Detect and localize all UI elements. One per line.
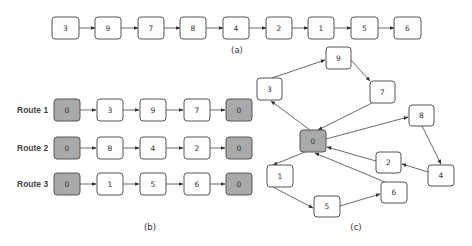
svg-text:3: 3: [267, 85, 272, 94]
svg-text:8: 8: [191, 24, 196, 33]
svg-text:2: 2: [195, 144, 200, 153]
svg-text:9: 9: [151, 106, 156, 115]
svg-text:1: 1: [108, 180, 113, 189]
svg-text:0: 0: [237, 180, 242, 189]
sequence-node: 2: [266, 17, 292, 39]
sequence-node: 3: [52, 17, 79, 39]
svg-text:1: 1: [278, 172, 283, 181]
svg-text:5: 5: [325, 202, 330, 211]
routing-diagram: 3 9 7 8 4 2 1 5 6 (a) Route 1 0 3 9 7 0 …: [0, 0, 472, 246]
svg-text:1: 1: [319, 24, 324, 33]
route-1: Route 1 0 3 9 7 0: [17, 99, 252, 121]
graph-node: 6: [381, 182, 407, 203]
route-2: Route 2 0 8 4 2 0: [17, 137, 252, 159]
svg-text:0: 0: [65, 180, 70, 189]
depot-node: 0: [54, 99, 80, 121]
svg-text:9: 9: [106, 24, 111, 33]
route-node: 7: [184, 99, 210, 121]
svg-text:3: 3: [63, 24, 68, 33]
sequence-node: 4: [223, 17, 249, 39]
svg-text:4: 4: [234, 24, 239, 33]
svg-text:3: 3: [108, 106, 113, 115]
route-node: 2: [184, 137, 210, 159]
graph-node: 1: [267, 165, 293, 187]
svg-text:0: 0: [237, 144, 242, 153]
svg-text:5: 5: [362, 24, 367, 33]
graph-node: 8: [409, 105, 434, 126]
route-node: 1: [97, 173, 123, 195]
svg-text:7: 7: [149, 24, 154, 33]
sequence-node: 8: [180, 17, 206, 39]
graph-node: 4: [428, 165, 454, 186]
panel-c-route-graph: 0 3 9 7 8 2 4 1 6 5 (c): [257, 47, 454, 232]
svg-text:4: 4: [151, 144, 156, 153]
svg-text:6: 6: [392, 188, 397, 197]
caption-b: (b): [144, 222, 156, 232]
depot-node: 0: [226, 173, 252, 195]
route-node: 6: [184, 173, 210, 195]
route-label: Route 3: [17, 179, 48, 189]
svg-text:7: 7: [195, 106, 200, 115]
route-node: 3: [97, 99, 123, 121]
depot-node: 0: [226, 99, 252, 121]
svg-text:5: 5: [151, 180, 156, 189]
graph-node: 7: [370, 81, 395, 103]
svg-text:8: 8: [419, 111, 424, 120]
svg-text:6: 6: [195, 180, 200, 189]
sequence-node: 5: [351, 17, 378, 39]
svg-text:0: 0: [65, 144, 70, 153]
panel-b-routes: Route 1 0 3 9 7 0 Route 2 0 8 4 2 0 Rout: [17, 99, 252, 232]
graph-node: 3: [257, 78, 282, 100]
route-node: 5: [140, 173, 166, 195]
route-label: Route 2: [17, 143, 48, 153]
svg-text:0: 0: [65, 106, 70, 115]
sequence-node: 1: [308, 17, 334, 39]
depot-node: 0: [226, 137, 252, 159]
graph-depot-node: 0: [300, 130, 326, 152]
graph-node: 9: [326, 47, 351, 69]
route-node: 9: [140, 99, 166, 121]
panel-a-giant-tour: 3 9 7 8 4 2 1 5 6 (a): [52, 17, 421, 55]
svg-text:0: 0: [237, 106, 242, 115]
graph-node: 5: [314, 196, 340, 217]
caption-a: (a): [231, 45, 243, 55]
route-3: Route 3 0 1 5 6 0: [17, 173, 252, 195]
sequence-node: 9: [95, 17, 121, 39]
svg-text:0: 0: [311, 137, 316, 146]
svg-text:6: 6: [405, 24, 410, 33]
svg-text:8: 8: [108, 144, 113, 153]
depot-node: 0: [54, 173, 80, 195]
svg-text:4: 4: [439, 171, 444, 180]
route-node: 4: [140, 137, 166, 159]
sequence-node: 7: [138, 17, 164, 39]
sequence-node: 6: [394, 17, 421, 39]
depot-node: 0: [54, 137, 80, 159]
svg-text:2: 2: [386, 158, 391, 167]
graph-node: 2: [376, 152, 401, 173]
svg-text:2: 2: [277, 24, 282, 33]
svg-text:9: 9: [336, 54, 341, 63]
route-node: 8: [97, 137, 123, 159]
svg-text:7: 7: [380, 88, 385, 97]
route-label: Route 1: [17, 105, 48, 115]
caption-c: (c): [350, 222, 361, 232]
